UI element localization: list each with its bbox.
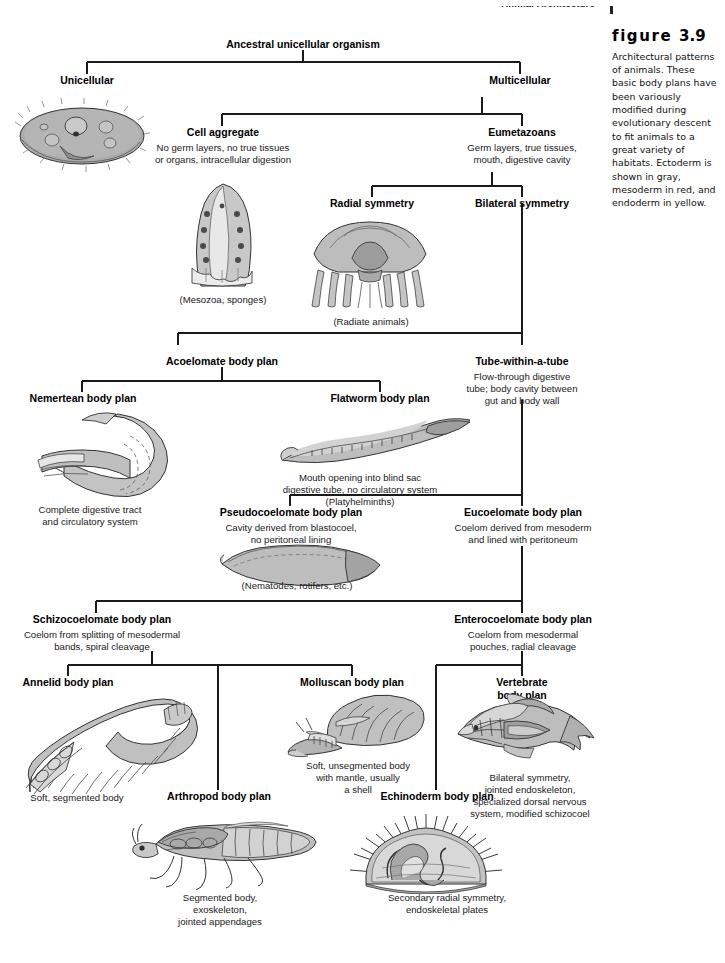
node-title: Tube-within-a-tube xyxy=(448,355,596,368)
node-title: Molluscan body plan xyxy=(288,676,416,689)
node-unicellular[interactable]: Unicellular xyxy=(27,74,147,87)
node-schizocoelomate-body-plan[interactable]: Schizocoelomate body plan Coelom from sp… xyxy=(8,613,196,653)
caption-nematodes: (Nematodes, rotifers, etc.) xyxy=(190,580,404,592)
node-subtitle: Coelom derived from mesoderm and lined w… xyxy=(440,522,606,546)
node-bilateral-symmetry[interactable]: Bilateral symmetry xyxy=(452,197,592,210)
figure-caption-text: Architectural patterns of animals. These… xyxy=(612,50,720,210)
node-enterocoelomate-body-plan[interactable]: Enterocoelomate body plan Coelom from me… xyxy=(434,613,612,653)
node-subtitle: Flow-through digestive tube; body cavity… xyxy=(448,371,596,407)
node-nemertean-body-plan[interactable]: Nemertean body plan xyxy=(14,392,152,405)
caption-nemertean: Complete digestive tract and circulatory… xyxy=(10,504,170,528)
arthropod-insect-illustration xyxy=(128,808,324,890)
node-title: Eucoelomate body plan xyxy=(440,506,606,519)
node-title: Radial symmetry xyxy=(302,197,442,210)
node-annelid-body-plan[interactable]: Annelid body plan xyxy=(4,676,132,689)
node-title: Enterocoelomate body plan xyxy=(434,613,612,626)
node-title: Annelid body plan xyxy=(4,676,132,689)
figure-caption: figure 3.9 Architectural patterns of ani… xyxy=(612,28,720,210)
node-title: Schizocoelomate body plan xyxy=(8,613,196,626)
figure-diagram: Ancestral unicellular organism Unicellul… xyxy=(0,0,600,963)
node-cell-aggregate[interactable]: Cell aggregate No germ layers, no true t… xyxy=(120,126,326,166)
node-multicellular[interactable]: Multicellular xyxy=(460,74,580,87)
figure-caption-number: 3.9 xyxy=(679,27,706,45)
node-title: Acoelomate body plan xyxy=(140,355,304,368)
caption-molluscan: Soft, unsegmented body with mantle, usua… xyxy=(278,760,438,796)
annelid-earthworm-illustration xyxy=(12,692,198,800)
vertebrate-fish-illustration xyxy=(452,692,600,772)
figure-caption-label: figure xyxy=(612,27,672,45)
node-acoelomate-body-plan[interactable]: Acoelomate body plan xyxy=(140,355,304,368)
node-flatworm-body-plan[interactable]: Flatworm body plan xyxy=(314,392,446,405)
echinoderm-urchin-illustration xyxy=(348,812,504,894)
mollusc-snail-illustration xyxy=(284,692,428,760)
node-title: Bilateral symmetry xyxy=(452,197,592,210)
node-title: Nemertean body plan xyxy=(14,392,152,405)
node-title: Cell aggregate xyxy=(120,126,326,139)
caption-mesozoa-sponges: (Mesozoa, sponges) xyxy=(140,294,306,306)
node-ancestral-unicellular-organism[interactable]: Ancestral unicellular organism xyxy=(188,38,418,51)
figure-caption-heading: figure 3.9 xyxy=(612,28,720,45)
caption-flatworm: Mouth opening into blind sac digestive t… xyxy=(236,472,484,508)
flatworm-illustration xyxy=(276,414,476,476)
nemertean-worm-illustration xyxy=(20,408,190,504)
node-subtitle: Germ layers, true tissues, mouth, digest… xyxy=(432,142,612,166)
node-molluscan-body-plan[interactable]: Molluscan body plan xyxy=(288,676,416,689)
node-subtitle: No germ layers, no true tissues or organ… xyxy=(120,142,326,166)
caption-radiate-animals: (Radiate animals) xyxy=(292,316,450,328)
node-title: Pseudocoelomate body plan xyxy=(196,506,386,519)
sponge-illustration xyxy=(182,180,264,290)
page-number: 61 xyxy=(706,0,717,9)
node-radial-symmetry[interactable]: Radial symmetry xyxy=(302,197,442,210)
running-head-rule xyxy=(610,0,613,14)
node-subtitle: Coelom from splitting of mesodermal band… xyxy=(8,629,196,653)
caption-annelid: Soft, segmented body xyxy=(2,792,152,804)
node-title: Unicellular xyxy=(27,74,147,87)
node-title: Multicellular xyxy=(460,74,580,87)
node-title: Eumetazoans xyxy=(432,126,612,139)
caption-echinoderm: Secondary radial symmetry, endoskeletal … xyxy=(358,892,536,916)
node-subtitle: Coelom from mesodermal pouches, radial c… xyxy=(434,629,612,653)
node-eumetazoans[interactable]: Eumetazoans Germ layers, true tissues, m… xyxy=(432,126,612,166)
node-title: Flatworm body plan xyxy=(314,392,446,405)
caption-arthropod: Segmented body, exoskeleton, jointed app… xyxy=(138,892,302,928)
jellyfish-illustration xyxy=(300,214,440,310)
node-eucoelomate-body-plan[interactable]: Eucoelomate body plan Coelom derived fro… xyxy=(440,506,606,546)
node-tube-within-a-tube[interactable]: Tube-within-a-tube Flow-through digestiv… xyxy=(448,355,596,407)
node-title: Ancestral unicellular organism xyxy=(188,38,418,51)
